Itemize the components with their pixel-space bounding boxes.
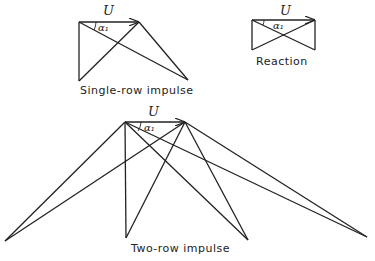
velocity-u-label: U <box>280 3 291 18</box>
two-row-caption: Two-row impulse <box>131 242 230 255</box>
reaction-caption: Reaction <box>256 55 308 68</box>
angle-alpha1-label: α₁ <box>273 20 284 31</box>
angle-alpha1-label: α₁ <box>98 22 109 33</box>
velocity-u-label: U <box>103 3 114 18</box>
velocity-triangles-figure <box>0 0 375 261</box>
angle-alpha1-label: α₁ <box>144 122 155 133</box>
two-row-diagram <box>5 122 367 241</box>
velocity-u-label: U <box>148 104 159 119</box>
single-row-caption: Single-row impulse <box>80 84 194 97</box>
single-row-diagram <box>79 22 188 81</box>
